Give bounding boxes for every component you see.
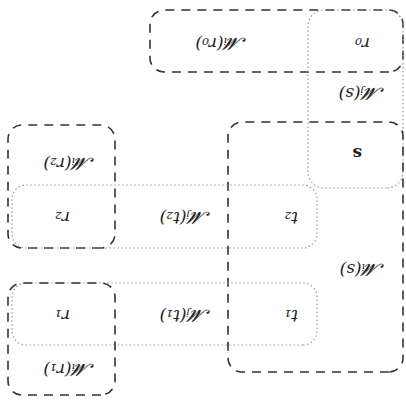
- label-Mi-r1: 𝓜ᵢ(r₁): [43, 360, 94, 380]
- label-r2: r₂: [55, 208, 70, 228]
- label-Mi-s: 𝓜ᵢ(s): [340, 260, 384, 280]
- box-Mi-r2: [8, 125, 115, 248]
- label-r0: r₀: [355, 34, 370, 54]
- label-Mi-r0: 𝓜ᵢ(r₀): [195, 34, 246, 54]
- label-s: s: [352, 144, 362, 164]
- label-Mj-t2: 𝓜ⱼ(t₂): [160, 208, 210, 228]
- label-Mi-r2: 𝓜ᵢ(r₂): [43, 154, 94, 174]
- diagram-shapes: [0, 0, 406, 404]
- box-Mi-s: [228, 122, 403, 372]
- diagram-canvas: 𝓜ᵢ(r₀) r₀ 𝓜ⱼ(s) s 𝓜ᵢ(r₂) r₂ 𝓜ⱼ(t₂) t₂ 𝓜ᵢ…: [0, 0, 406, 404]
- label-t2: t₂: [284, 208, 298, 228]
- label-r1: r₁: [55, 306, 70, 326]
- label-Mj-s: 𝓜ⱼ(s): [339, 84, 384, 104]
- label-Mj-t1: 𝓜ⱼ(t₁): [160, 306, 210, 326]
- label-t1: t₁: [284, 306, 298, 326]
